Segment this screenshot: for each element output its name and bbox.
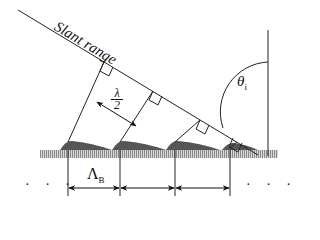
incidence-angle-label: θi — [237, 73, 247, 92]
period-symbol: Λ — [87, 165, 99, 182]
period-subscript: B — [99, 175, 105, 185]
wavefronts — [68, 62, 242, 152]
bragg-period-label: ΛB — [87, 165, 105, 185]
half-wavelength-label: λ 2 — [110, 88, 124, 111]
continuation-dots-left: · · · — [25, 177, 76, 193]
lambda-denominator: 2 — [114, 98, 120, 112]
theta-subscript: i — [244, 82, 247, 92]
continuation-dots-right: · · · — [246, 177, 294, 193]
incidence-angle-arc — [220, 62, 268, 128]
